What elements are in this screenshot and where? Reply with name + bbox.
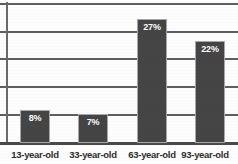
x-axis-labels: 13-year-old 33-year-old 63-year-old 93-y… (0, 148, 238, 164)
bar-value-label: 7% (79, 117, 107, 128)
bar-chart-figure: 8% 7% 27% 22% 13-year-old 33-year-old 63… (0, 0, 238, 164)
gridline (0, 31, 238, 33)
bar-value-label: 27% (138, 22, 166, 33)
x-axis-label-93-year-old: 93-year-old (168, 148, 238, 161)
bar-value-label: 8% (21, 113, 49, 124)
gridline (0, 3, 238, 5)
chart-plot-area: 8% 7% 27% 22% (0, 0, 238, 146)
bar-33-year-old: 7% (78, 114, 108, 143)
bar-value-label: 22% (196, 44, 224, 55)
bar-63-year-old: 27% (137, 19, 167, 143)
bar-13-year-old: 8% (20, 110, 50, 143)
y-axis-line (6, 2, 8, 145)
bar-93-year-old: 22% (195, 41, 225, 143)
